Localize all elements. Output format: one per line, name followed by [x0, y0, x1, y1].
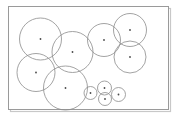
circle-left-lower-center-dot — [35, 72, 37, 74]
circles-diagram — [0, 0, 178, 118]
circle-center-top-center-dot — [103, 39, 105, 41]
circle-right-lower-center-dot — [129, 56, 131, 58]
circle-right-upper-center-dot — [129, 29, 131, 31]
circle-small-bottom-center-dot — [104, 98, 106, 100]
circle-upper-middle-center-dot — [72, 51, 74, 53]
circle-bottom-center-center-dot — [65, 87, 67, 89]
circle-top-left-center-dot — [40, 38, 42, 40]
circle-small-top-center-dot — [104, 87, 106, 89]
circle-small-right-center-dot — [118, 94, 120, 96]
figure-container — [0, 0, 178, 118]
circle-small-left-center-dot — [90, 92, 92, 94]
